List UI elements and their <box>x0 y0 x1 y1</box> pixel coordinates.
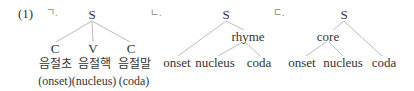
tree-3-root: S <box>340 8 347 21</box>
tree-1-child-c2: C <box>127 42 136 55</box>
example-number: (1) <box>18 7 33 20</box>
tree-1-marker: ㄱ. <box>46 8 58 18</box>
tree-1-korean-nucleus: 음절핵 <box>78 58 111 70</box>
tree-2-onset: onset <box>163 56 190 69</box>
tree-2-nucleus: nucleus <box>195 56 235 69</box>
tree-3-onset: onset <box>288 56 315 69</box>
tree-3-nucleus: nucleus <box>323 56 363 69</box>
tree-1-child-v: V <box>88 42 97 55</box>
tree-2-root: S <box>222 8 229 21</box>
tree-1-korean-coda: 음절말 <box>118 58 151 70</box>
tree-1-korean-onset: 음절초 <box>39 58 72 70</box>
tree-3-core: core <box>317 30 339 43</box>
tree-1-gloss-nucleus: (nucleus) <box>72 75 117 87</box>
tree-1-root: S <box>88 8 95 21</box>
tree-1-gloss-onset: (onset) <box>38 75 71 87</box>
tree-1-child-c1: C <box>51 42 60 55</box>
tree-2-rhyme: rhyme <box>231 30 264 43</box>
tree-3-marker: ㄷ. <box>273 8 285 18</box>
tree-2-marker: ㄴ. <box>150 8 162 18</box>
tree-2-coda: coda <box>247 56 272 69</box>
tree-1-gloss-coda: (coda) <box>119 75 150 87</box>
tree-3-coda: coda <box>372 56 397 69</box>
